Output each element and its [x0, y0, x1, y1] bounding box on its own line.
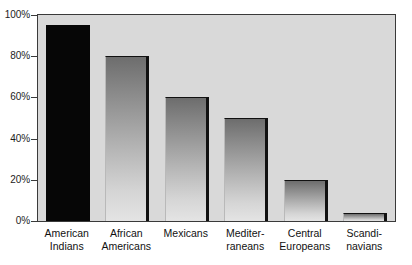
y-tick-label: 40%	[10, 134, 30, 144]
x-axis-labels: AmericanIndiansAfricanAmericansMexicansM…	[37, 227, 396, 265]
x-label-line: Indians	[37, 240, 97, 253]
bar-scandinavians	[343, 213, 387, 221]
x-label-line: raneans	[216, 240, 276, 253]
x-axis-label-central-europeans: CentralEuropeans	[275, 227, 335, 253]
bar-african-americans	[105, 56, 149, 221]
x-axis-label-mexicans: Mexicans	[156, 227, 216, 240]
x-axis-label-mediterraneans: Mediter-raneans	[216, 227, 276, 253]
x-label-line: American	[37, 227, 97, 240]
x-axis-label-american-indians: AmericanIndians	[37, 227, 97, 253]
plot-area	[37, 14, 396, 222]
y-tick-label: 0%	[16, 216, 30, 226]
y-tick-label: 60%	[10, 92, 30, 102]
y-axis: 0%20%40%60%80%100%	[0, 0, 37, 236]
x-label-line: Scandi-	[335, 227, 395, 240]
bar-chart: 0%20%40%60%80%100% AmericanIndiansAfrica…	[0, 0, 412, 265]
x-label-line: Mediter-	[216, 227, 276, 240]
bars-container	[38, 15, 395, 221]
x-label-line: Central	[275, 227, 335, 240]
y-tick-label: 80%	[10, 51, 30, 61]
x-label-line: Europeans	[275, 240, 335, 253]
x-label-line: Mexicans	[156, 227, 216, 240]
x-axis-label-scandinavians: Scandi-navians	[335, 227, 395, 253]
x-label-line: Americans	[97, 240, 157, 253]
bar-mexicans	[165, 97, 209, 221]
bar-mediterraneans	[224, 118, 268, 221]
x-label-line: African	[97, 227, 157, 240]
y-tick-label: 100%	[5, 10, 30, 20]
bar-american-indians	[46, 25, 90, 221]
x-axis-label-african-americans: AfricanAmericans	[97, 227, 157, 253]
bar-central-europeans	[284, 180, 328, 221]
y-tick-label: 20%	[10, 175, 30, 185]
x-label-line: navians	[335, 240, 395, 253]
